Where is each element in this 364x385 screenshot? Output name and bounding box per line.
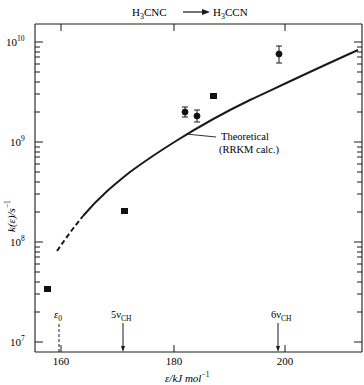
reaction-arrow	[183, 9, 210, 15]
plot-frame	[35, 24, 362, 352]
data-point-square	[210, 93, 217, 99]
data-point-square	[121, 208, 128, 214]
x-tick-200: 200	[277, 355, 294, 367]
x-axis-label: ε/kJ mol−1	[165, 370, 210, 384]
y-ticks-left	[35, 42, 43, 342]
arrow-down-icon	[276, 346, 280, 352]
data-circles	[182, 46, 282, 122]
y-tick-1e10: 1010	[6, 34, 25, 48]
y-axis-label: k(ε)/s−1	[3, 200, 18, 232]
y-ticks-right	[354, 42, 362, 342]
y-tick-1e9: 109	[10, 134, 25, 148]
y-tick-1e7: 107	[10, 334, 25, 348]
x-tick-180: 180	[166, 355, 183, 367]
arrow-down-icon	[121, 346, 125, 352]
data-point-square	[44, 286, 51, 292]
svg-text:Theoretical: Theoretical	[221, 131, 269, 142]
y-tick-1e8: 108	[10, 234, 25, 248]
data-squares	[44, 93, 217, 292]
svg-text:ε0: ε0	[54, 309, 62, 323]
data-point-circle	[182, 107, 188, 117]
theory-annotation: Theoretical (RRKM calc.)	[186, 131, 280, 156]
chart-title-product: H3CCN	[213, 6, 248, 21]
data-point-circle	[194, 110, 200, 122]
theory-curve-dashed	[57, 216, 83, 251]
chart-title: H3CNC	[132, 6, 167, 21]
top-ticks	[61, 24, 285, 31]
data-point-circle	[276, 46, 282, 63]
five-nu-ch-marker: 5νCH	[111, 309, 132, 352]
six-nu-ch-marker: 6νCH	[271, 309, 292, 352]
x-ticks	[61, 345, 285, 352]
x-tick-160: 160	[53, 355, 70, 367]
chart: H3CNC H3CCN	[0, 0, 364, 385]
svg-text:5νCH: 5νCH	[111, 309, 132, 323]
svg-text:(RRKM calc.): (RRKM calc.)	[219, 144, 280, 156]
svg-text:6νCH: 6νCH	[271, 309, 292, 323]
